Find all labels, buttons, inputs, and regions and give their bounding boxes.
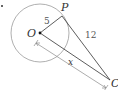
label-radius: 5 <box>44 16 50 26</box>
segment-oc <box>40 33 110 80</box>
label-point-c: C <box>111 77 118 90</box>
tangent-diagram: O P C 5 12 x <box>0 0 118 90</box>
label-distance-x: x <box>68 57 73 67</box>
label-tangent-length: 12 <box>85 30 96 40</box>
label-center-o: O <box>27 27 36 40</box>
label-point-p: P <box>60 1 69 14</box>
item-bullet <box>1 5 3 7</box>
center-point <box>39 32 42 35</box>
tangent-segment-pc <box>62 16 110 80</box>
